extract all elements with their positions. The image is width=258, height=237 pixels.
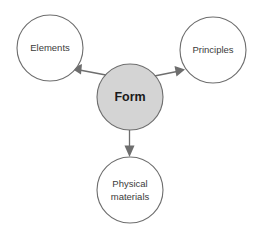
node-physical-materials[interactable]: Physical materials bbox=[97, 157, 163, 223]
node-principles-label: Principles bbox=[192, 44, 233, 55]
diagram-canvas: Elements Principles Physical materials F… bbox=[0, 0, 258, 237]
arrow-head-physical-materials bbox=[125, 146, 135, 158]
node-physical-materials-label-line1: Physical bbox=[112, 178, 147, 189]
connector-line-form-elements bbox=[80, 70, 109, 76]
node-principles[interactable]: Principles bbox=[180, 17, 246, 83]
node-form[interactable]: Form bbox=[97, 64, 163, 130]
form-relationships-diagram: Elements Principles Physical materials F… bbox=[0, 0, 258, 237]
arrow-head-principles bbox=[175, 66, 186, 77]
node-physical-materials-circle[interactable] bbox=[97, 157, 163, 223]
arrow-form-to-physical-materials bbox=[125, 130, 135, 157]
arrow-form-to-principles bbox=[152, 66, 185, 77]
node-elements-label: Elements bbox=[30, 42, 70, 53]
node-form-label: Form bbox=[114, 90, 145, 104]
node-elements[interactable]: Elements bbox=[17, 15, 83, 81]
node-physical-materials-label-line2: materials bbox=[111, 191, 150, 202]
